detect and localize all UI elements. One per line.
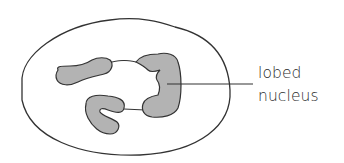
nucleus-lobe (86, 95, 125, 134)
cell-membrane (22, 19, 230, 155)
nucleus-label-line-1: lobed (258, 66, 302, 82)
nucleus-lobe (136, 53, 181, 117)
nucleus-lobe (56, 58, 112, 85)
nucleus-filament (124, 109, 145, 110)
nucleus-label-line-2: nucleus (258, 89, 319, 105)
nucleus-filament (112, 61, 136, 63)
